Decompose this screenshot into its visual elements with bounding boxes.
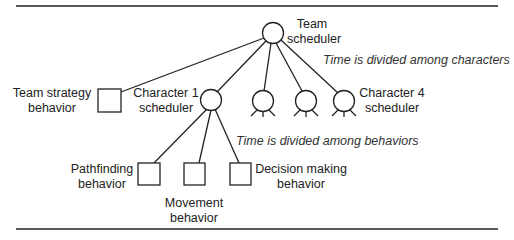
edge-character1 xyxy=(217,41,266,92)
label-line: Team strategy xyxy=(10,86,94,101)
label-line: Decision making xyxy=(255,162,347,177)
behaviors-annotation: Time is divided among behaviors xyxy=(236,134,419,149)
scheduling-hierarchy-diagram: Team scheduler Time is divided among cha… xyxy=(0,0,514,240)
movement-node xyxy=(184,163,205,185)
character1-scheduler-node xyxy=(201,90,222,111)
characters-annotation: Time is divided among characters xyxy=(323,53,510,68)
edge-pathfinding xyxy=(154,109,207,163)
team-strategy-label: Team strategy behavior xyxy=(10,86,94,116)
decision-making-label: Decision making behavior xyxy=(255,162,347,192)
character4-scheduler-node xyxy=(334,91,355,112)
team-scheduler-label: Team scheduler xyxy=(287,17,337,47)
label-line: Character 1 xyxy=(133,86,199,101)
edge-character3 xyxy=(276,43,302,91)
label-line: Movement xyxy=(162,196,226,211)
movement-label: Movement behavior xyxy=(162,196,226,226)
diagram-graphics xyxy=(0,0,514,240)
label-line: Pathfinding xyxy=(70,162,134,177)
edge-character2 xyxy=(264,43,271,91)
edge-movement xyxy=(199,110,211,163)
label-line: behavior xyxy=(255,177,347,192)
label-line: behavior xyxy=(70,177,134,192)
label-line: behavior xyxy=(10,101,94,116)
character1-label: Character 1 scheduler xyxy=(133,86,199,116)
character2-scheduler-node xyxy=(253,91,274,112)
label-line: scheduler xyxy=(358,101,426,116)
label-line: scheduler xyxy=(287,32,337,47)
label-line: Team xyxy=(287,17,337,32)
decision-node xyxy=(230,163,251,185)
label-line: Character 4 xyxy=(358,86,426,101)
pathfinding-label: Pathfinding behavior xyxy=(70,162,134,192)
label-line: scheduler xyxy=(133,101,199,116)
pathfinding-node xyxy=(138,163,160,185)
character4-label: Character 4 scheduler xyxy=(358,86,426,116)
character3-scheduler-node xyxy=(296,91,317,112)
label-line: behavior xyxy=(162,211,226,226)
team-scheduler-node xyxy=(263,23,284,44)
team-strategy-node xyxy=(98,89,121,112)
